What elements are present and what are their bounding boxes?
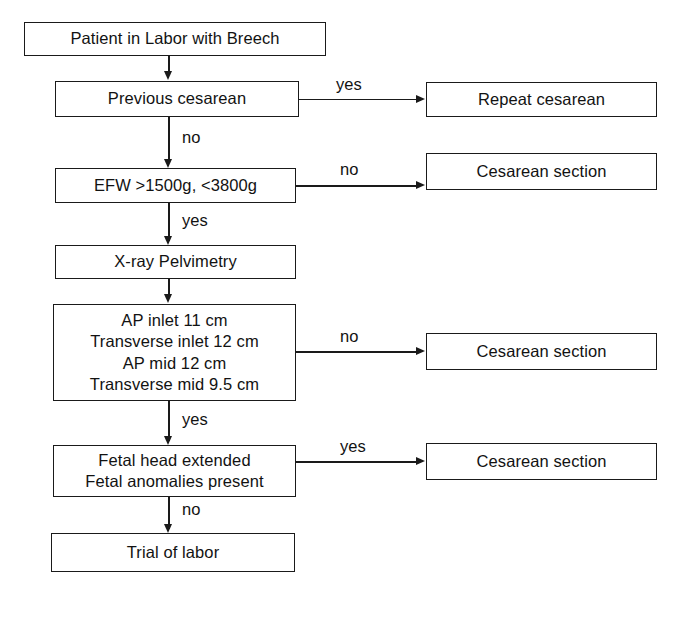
- edge-label-pelvimetry-no: no: [340, 328, 358, 345]
- node-pelvimetry-criteria-line-1: AP inlet 11 cm: [121, 310, 227, 331]
- node-pelvimetry-label: X-ray Pelvimetry: [114, 251, 237, 272]
- node-pelvimetry-criteria-line-3: AP mid 12 cm: [123, 353, 227, 374]
- connector-previous-cesarean-yes: [299, 99, 417, 101]
- node-cesarean-section-efw[interactable]: Cesarean section: [426, 153, 657, 190]
- arrowhead-efw-yes: [164, 236, 172, 245]
- edge-label-fetal-yes: yes: [340, 438, 366, 455]
- arrowhead-previous-cesarean-yes: [416, 95, 425, 103]
- connector-pelvimetry-no: [296, 351, 417, 353]
- flowchart-canvas: Patient in Labor with Breech Previous ce…: [0, 0, 681, 617]
- arrowhead-fetal-yes: [416, 457, 425, 465]
- node-fetal-findings-line-1: Fetal head extended: [98, 450, 250, 471]
- node-cesarean-section-efw-label: Cesarean section: [476, 161, 606, 182]
- arrowhead-start-to-previous-cesarean: [164, 71, 172, 80]
- edge-label-previous-cesarean-no: no: [182, 129, 200, 146]
- node-repeat-cesarean[interactable]: Repeat cesarean: [426, 82, 657, 117]
- node-start[interactable]: Patient in Labor with Breech: [24, 22, 326, 56]
- edge-label-fetal-no: no: [182, 501, 200, 518]
- node-repeat-cesarean-label: Repeat cesarean: [478, 89, 605, 110]
- arrowhead-pelvimetry-yes: [164, 436, 172, 445]
- node-pelvimetry-criteria-line-2: Transverse inlet 12 cm: [90, 331, 258, 352]
- connector-previous-cesarean-no: [168, 117, 170, 162]
- node-pelvimetry-criteria[interactable]: AP inlet 11 cm Transverse inlet 12 cm AP…: [53, 304, 296, 401]
- node-pelvimetry[interactable]: X-ray Pelvimetry: [55, 245, 296, 279]
- node-fetal-findings[interactable]: Fetal head extended Fetal anomalies pres…: [53, 445, 296, 497]
- node-cesarean-section-pelvimetry-label: Cesarean section: [476, 341, 606, 362]
- arrowhead-pelvimetry-to-criteria: [164, 294, 172, 303]
- node-cesarean-section-fetal-label: Cesarean section: [476, 451, 606, 472]
- node-efw-label: EFW >1500g, <3800g: [94, 175, 257, 196]
- node-start-label: Patient in Labor with Breech: [70, 28, 279, 49]
- node-trial-of-labor-label: Trial of labor: [127, 542, 220, 563]
- arrowhead-previous-cesarean-no: [164, 159, 172, 168]
- connector-fetal-yes: [296, 461, 417, 463]
- node-previous-cesarean-label: Previous cesarean: [108, 88, 246, 109]
- node-trial-of-labor[interactable]: Trial of labor: [51, 533, 295, 572]
- node-cesarean-section-pelvimetry[interactable]: Cesarean section: [426, 333, 657, 370]
- node-pelvimetry-criteria-line-4: Transverse mid 9.5 cm: [90, 374, 259, 395]
- edge-label-previous-cesarean-yes: yes: [336, 76, 362, 93]
- node-cesarean-section-fetal[interactable]: Cesarean section: [426, 443, 657, 480]
- arrowhead-fetal-no: [164, 524, 172, 533]
- connector-efw-no: [296, 185, 417, 187]
- edge-label-efw-no: no: [340, 161, 358, 178]
- edge-label-pelvimetry-yes: yes: [182, 411, 208, 428]
- arrowhead-pelvimetry-no: [416, 347, 425, 355]
- node-efw[interactable]: EFW >1500g, <3800g: [55, 168, 296, 203]
- arrowhead-efw-no: [416, 181, 425, 189]
- connector-pelvimetry-yes: [168, 401, 170, 441]
- edge-label-efw-yes: yes: [182, 212, 208, 229]
- node-fetal-findings-line-2: Fetal anomalies present: [85, 471, 263, 492]
- node-previous-cesarean[interactable]: Previous cesarean: [55, 81, 299, 117]
